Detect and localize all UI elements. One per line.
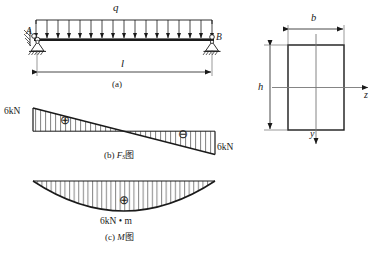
span-dimension: [37, 50, 212, 76]
shear-right-value: 6kN: [217, 143, 233, 153]
panel-b-caption: (b) FS图: [104, 151, 134, 160]
panel-a-caption: (a): [112, 80, 122, 89]
support-right-label: B: [216, 33, 222, 43]
section-width-label: b: [311, 13, 316, 24]
panel-c-caption-prefix: (c): [105, 232, 117, 242]
section-height-label: h: [258, 82, 263, 93]
moment-positive-sign: ⊕: [119, 194, 129, 206]
axis-y-label: y: [310, 129, 314, 139]
panel-c-caption: (c) M图: [105, 233, 134, 242]
distributed-load-arrows: [36, 20, 212, 38]
panel-b-caption-suffix: 图: [125, 150, 134, 160]
shear-negative-sign: ⊖: [178, 128, 188, 140]
axis-z-label: z: [364, 90, 368, 100]
panel-c-caption-suffix: 图: [125, 232, 134, 242]
shear-positive-sign: ⊕: [60, 114, 70, 126]
support-left-label: A: [26, 27, 32, 37]
beam-diagram: [0, 0, 250, 95]
panel-c-caption-symbol: M: [117, 232, 125, 242]
load-label: q: [113, 2, 119, 13]
beam-member: [34, 38, 214, 41]
panel-b-caption-prefix: (b): [104, 150, 117, 160]
span-label: l: [121, 58, 124, 69]
engineering-figure: q A B l (a): [0, 0, 376, 256]
moment-max-value: 6kN • m: [100, 217, 132, 227]
shear-left-value: 6kN: [4, 107, 20, 117]
